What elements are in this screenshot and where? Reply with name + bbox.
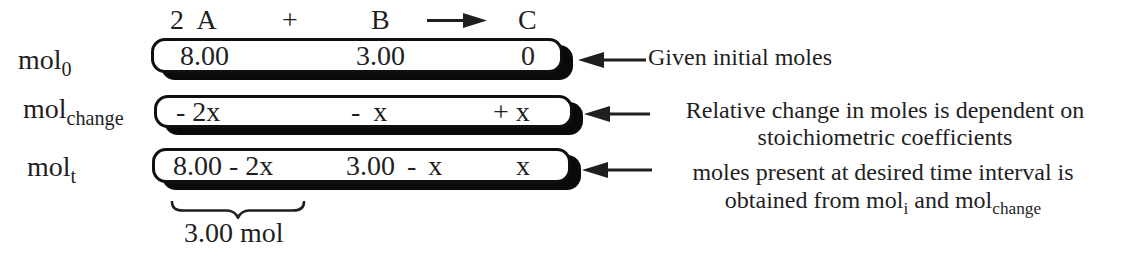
row-label-subscript: t: [71, 165, 77, 187]
row-label-base: mol: [27, 151, 71, 182]
row-label-mol0: mol0: [18, 44, 72, 76]
annotation-subscript: change: [992, 199, 1041, 218]
molt-cell-a: 8.00 - 2x: [173, 151, 273, 180]
row-label-subscript: 0: [62, 58, 72, 80]
annotation-line: Relative change in moles is dependent on: [650, 97, 1120, 124]
annotation-text: obtained from mol: [725, 187, 904, 213]
molchange-cell-a: - 2x: [176, 98, 220, 125]
equation-term-a: 2 A: [170, 5, 217, 35]
brace-value-label: 3.00 mol: [184, 218, 284, 248]
annotation-line: obtained from moli and molchange: [648, 186, 1118, 214]
equation-plus-sign: +: [282, 5, 298, 35]
callout-arrow-icon: [578, 51, 646, 69]
molchange-box: - 2x - x + x: [154, 95, 573, 128]
annotation-relative-change: Relative change in moles is dependent on…: [650, 97, 1120, 151]
row-label-molchange: molchange: [23, 93, 124, 125]
mol0-cell-b: 3.00: [356, 41, 405, 70]
callout-arrow-icon: [582, 161, 652, 179]
molt-cell-b: 3.00 - x: [346, 151, 442, 180]
annotation-initial-moles: Given initial moles: [648, 44, 832, 71]
molchange-cell-c: + x: [493, 98, 530, 125]
annotation-line: moles present at desired time interval i…: [648, 158, 1118, 186]
row-label-base: mol: [18, 44, 62, 75]
mol0-box: 8.00 3.00 0: [151, 38, 563, 73]
annotation-text: and mol: [908, 187, 992, 213]
row-label-base: mol: [23, 93, 67, 124]
annotation-line: stoichiometric coefficients: [650, 124, 1120, 151]
equation-term-c: C: [518, 5, 537, 35]
row-label-molt: molt: [27, 151, 76, 183]
molchange-cell-b: - x: [351, 98, 387, 125]
row-label-subscript: change: [67, 107, 124, 129]
mol0-cell-c: 0: [521, 41, 535, 70]
mole-table-diagram: 2 A + B C mol0 8.00 3.00 0 Given initial…: [0, 0, 1121, 254]
reaction-arrow-icon: [427, 12, 487, 29]
equation-term-b: B: [371, 5, 390, 35]
annotation-moles-at-time: moles present at desired time interval i…: [648, 158, 1118, 214]
molt-cell-c: x: [516, 151, 530, 180]
molt-box: 8.00 - 2x 3.00 - x x: [152, 148, 571, 183]
callout-arrow-icon: [584, 105, 650, 123]
mol0-cell-a: 8.00: [180, 41, 229, 70]
